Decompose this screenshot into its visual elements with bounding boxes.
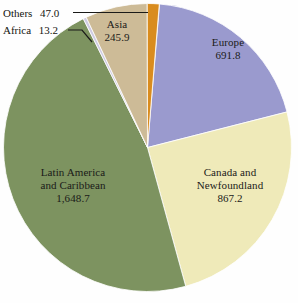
pie-label-asia: Asia 245.9	[92, 18, 142, 44]
pie-label-africa-value: 13.2	[39, 24, 58, 36]
pie-label-canada-name-line1: Canada and	[178, 166, 282, 179]
pie-label-europe-value: 691.8	[185, 49, 271, 62]
pie-chart-figure: Europe 691.8 Canada and Newfoundland 867…	[0, 0, 298, 303]
pie-label-latin-value: 1,648.7	[18, 192, 128, 205]
pie-label-others-value: 47.0	[40, 7, 59, 19]
pie-label-others-name: Others	[3, 7, 32, 19]
pie-label-asia-name: Asia	[92, 18, 142, 31]
pie-label-latin-america-and-caribbean: Latin America and Caribbean 1,648.7	[18, 166, 128, 205]
pie-label-latin-name-line2: and Caribbean	[18, 179, 128, 192]
pie-label-latin-name-line1: Latin America	[18, 166, 128, 179]
pie-label-europe-name: Europe	[185, 36, 271, 49]
pie-label-africa-name: Africa	[3, 24, 31, 36]
pie-label-europe: Europe 691.8	[185, 36, 271, 62]
pie-label-canada-name-line2: Newfoundland	[178, 179, 282, 192]
pie-label-others: Others 47.0	[3, 7, 59, 20]
pie-label-canada-value: 867.2	[178, 192, 282, 205]
pie-label-africa: Africa 13.2	[3, 24, 58, 37]
pie-label-asia-value: 245.9	[92, 31, 142, 44]
pie-label-canada-and-newfoundland: Canada and Newfoundland 867.2	[178, 166, 282, 205]
